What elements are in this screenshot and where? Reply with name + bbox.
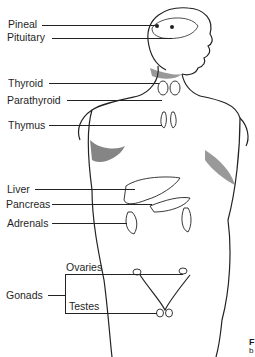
- label-pineal: Pineal: [8, 18, 37, 30]
- label-liver: Liver: [7, 183, 30, 195]
- body-illustration: [0, 0, 255, 357]
- endocrine-diagram: Pineal Pituitary Thyroid Parathyroid Thy…: [0, 0, 255, 357]
- label-parathyroid: Parathyroid: [7, 94, 61, 106]
- leader-pineal: [42, 25, 157, 26]
- label-thyroid: Thyroid: [8, 77, 43, 89]
- leader-pancreas: [52, 204, 152, 205]
- label-pancreas: Pancreas: [6, 198, 50, 210]
- gonads-bracket: [65, 274, 66, 313]
- leader-gonads: [48, 295, 65, 296]
- label-pituitary: Pituitary: [7, 31, 45, 43]
- label-testes: Testes: [69, 300, 99, 312]
- leader-parathyroid: [67, 100, 162, 101]
- leader-pituitary: [52, 38, 172, 39]
- label-thymus: Thymus: [8, 119, 45, 131]
- label-ovaries: Ovaries: [66, 261, 102, 273]
- leader-liver: [35, 189, 135, 190]
- leader-testes: [65, 313, 157, 314]
- label-gonads: Gonads: [6, 289, 43, 301]
- leader-ovaries: [65, 274, 183, 275]
- leader-thymus: [49, 125, 162, 126]
- label-adrenals: Adrenals: [7, 217, 48, 229]
- figure-caption-fragment-2: b: [249, 347, 253, 355]
- leader-adrenals: [52, 223, 127, 224]
- leader-thyroid: [49, 83, 159, 84]
